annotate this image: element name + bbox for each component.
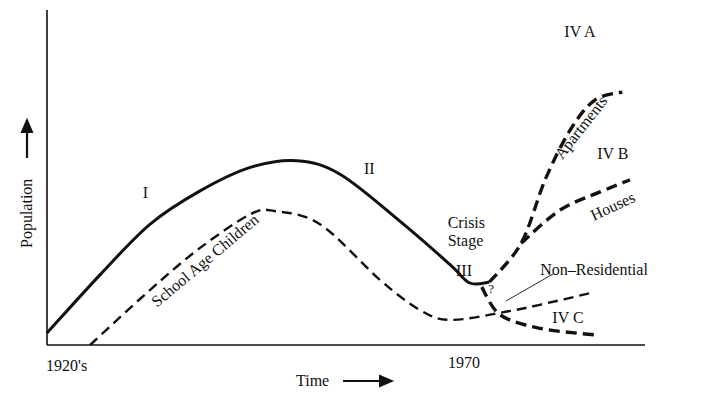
annotation-question: ? bbox=[488, 281, 494, 296]
annotation-stage-II: II bbox=[364, 160, 375, 177]
x-tick-label-1970: 1970 bbox=[448, 354, 480, 371]
annotation-stage-I: I bbox=[143, 184, 148, 201]
annotation-school-age: School Age Children bbox=[148, 211, 262, 311]
annotation-crisis-1: Crisis bbox=[448, 214, 485, 231]
y-axis-label: Population bbox=[18, 179, 36, 248]
annotation-stage-IVB: IV B bbox=[597, 145, 628, 162]
series-line-iv-a-apartments bbox=[490, 92, 623, 282]
population-chart: IIICrisisStageIII?Non–ResidentialIV AIV … bbox=[0, 0, 705, 400]
annotation-stage-IVC: IV C bbox=[552, 309, 583, 326]
annotation-stage-III: III bbox=[456, 262, 472, 279]
annotation-non-residential: Non–Residential bbox=[540, 261, 648, 278]
non-residential-leader-line bbox=[506, 274, 553, 301]
x-tick-label-1920s: 1920's bbox=[46, 357, 87, 374]
x-axis-label: Time bbox=[296, 372, 329, 389]
series-line-total-population bbox=[47, 160, 490, 332]
annotation-stage-IVA: IV A bbox=[564, 23, 596, 40]
annotation-crisis-2: Stage bbox=[448, 232, 484, 250]
